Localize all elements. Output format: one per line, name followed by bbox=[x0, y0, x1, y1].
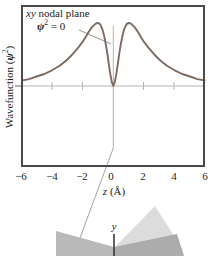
annotation-xy-italic: xy bbox=[26, 7, 36, 19]
x-tick-4: 4 bbox=[162, 170, 186, 182]
nodal-plane-annotation-line2: ψ2 = 0 bbox=[37, 19, 65, 32]
x-tick-neg4: −4 bbox=[40, 170, 64, 182]
y-axis-label: Wavefunction (ψ2) bbox=[1, 22, 15, 152]
nodal-plane-left bbox=[56, 231, 114, 256]
y-axis-label-post: ) bbox=[3, 46, 15, 50]
x-tick-6: 6 bbox=[193, 170, 212, 182]
x-axis-label: z (Å) bbox=[84, 186, 144, 198]
nodal-plane-annotation-line1: xy nodal plane bbox=[26, 8, 90, 20]
y-axis-psi-symbol: ψ bbox=[3, 53, 15, 60]
annotation-equals-zero: = 0 bbox=[48, 20, 65, 32]
y-axis-label-pre: Wavefunction ( bbox=[3, 60, 15, 128]
x-tick-neg2: −2 bbox=[70, 170, 94, 182]
x-tick-2: 2 bbox=[131, 170, 155, 182]
x-tick-0: 0 bbox=[99, 170, 123, 182]
x-axis-tick-labels: −6 −4 −2 0 2 4 6 bbox=[0, 170, 212, 183]
orbital-nodal-plane-figure: xy nodal plane ψ2 = 0 Wavefunction (ψ2) … bbox=[0, 0, 212, 256]
x-tick-neg6: −6 bbox=[9, 170, 33, 182]
y-axis-3d-letter: y bbox=[112, 221, 117, 232]
x-axis-unit: (Å) bbox=[107, 185, 125, 197]
y-axis-psi-exponent: 2 bbox=[1, 49, 10, 53]
figure-canvas bbox=[0, 0, 212, 256]
y-axis-3d-label: y bbox=[104, 221, 124, 232]
